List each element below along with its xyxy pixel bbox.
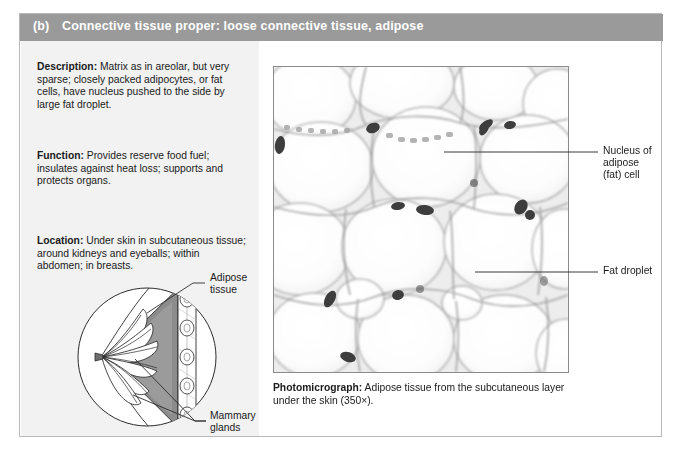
function-text-block: Function: Provides reserve food fuel; in… bbox=[37, 150, 247, 188]
photomicrograph-caption: Photomicrograph: Adipose tissue from the… bbox=[273, 382, 573, 407]
adipose-tissue-label: Adipose tissue bbox=[210, 272, 247, 296]
description-heading: Description: bbox=[37, 61, 97, 72]
fat-droplet-label: Fat droplet bbox=[603, 265, 652, 277]
location-text-block: Location: Under skin in subcutaneous tis… bbox=[37, 235, 247, 273]
nucleus bbox=[416, 285, 424, 293]
adipocyte-cells bbox=[274, 67, 568, 372]
function-heading: Function: bbox=[37, 150, 84, 161]
panel-letter: (b) bbox=[33, 19, 49, 33]
adipocyte-small bbox=[336, 279, 384, 319]
adipose-tissue-micrograph bbox=[273, 66, 569, 373]
nucleus bbox=[540, 276, 548, 286]
mammary-label-line2: glands bbox=[210, 422, 256, 434]
nucleus-of-adipose-cell-label: Nucleus of adipose (fat) cell bbox=[603, 145, 652, 182]
mammary-glands-label: Mammary glands bbox=[210, 410, 256, 434]
adipose-label-line2: tissue bbox=[210, 284, 247, 296]
mammary-label-line1: Mammary bbox=[210, 410, 256, 422]
breast-cross-section-diagram bbox=[75, 269, 225, 444]
nucleus bbox=[470, 179, 478, 187]
nucleus bbox=[525, 210, 535, 220]
nucleus-label-line3: (fat) cell bbox=[603, 169, 652, 181]
nucleus-label-line2: adipose bbox=[603, 157, 652, 169]
location-heading: Location: bbox=[37, 235, 83, 246]
figure-title: Connective tissue proper: loose connecti… bbox=[62, 19, 424, 33]
figure-header-bar: (b) Connective tissue proper: loose conn… bbox=[20, 14, 663, 41]
adipose-label-line1: Adipose bbox=[210, 272, 247, 284]
fat-droplet-label-text: Fat droplet bbox=[603, 265, 652, 277]
photomicrograph-caption-heading: Photomicrograph: bbox=[273, 382, 362, 393]
adipocyte bbox=[372, 107, 480, 207]
description-text-block: Description: Matrix as in areolar, but v… bbox=[37, 61, 247, 111]
nucleus-label-line1: Nucleus of bbox=[603, 145, 652, 157]
figure-panel-b: (b) Connective tissue proper: loose conn… bbox=[19, 13, 662, 437]
